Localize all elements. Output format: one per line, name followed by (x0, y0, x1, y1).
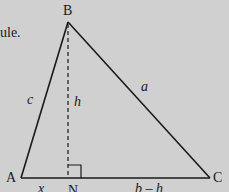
right-angle-marker (68, 165, 81, 178)
triangle-diagram: ule. B A C N c a h x b – h (0, 0, 229, 192)
triangle-figure (0, 0, 229, 192)
side-a (68, 22, 210, 178)
foot-label-n: N (68, 184, 78, 192)
vertex-label-a: A (6, 171, 16, 185)
caption-fragment: ule. (0, 26, 21, 40)
vertex-label-c: C (213, 171, 222, 185)
side-label-a: a (141, 80, 148, 94)
segment-label-b-minus-h: b – h (135, 182, 163, 192)
vertex-label-b: B (63, 4, 72, 18)
side-label-c: c (27, 93, 33, 107)
altitude-label-h: h (74, 95, 81, 109)
segment-label-x: x (38, 182, 44, 192)
